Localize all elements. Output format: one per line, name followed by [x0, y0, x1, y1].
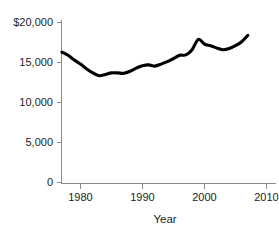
x-tick-label-1990: 1990: [130, 191, 154, 203]
x-tick-label-1980: 1980: [68, 191, 92, 203]
x-axis-title: Year: [153, 213, 176, 225]
data-line-series-value: [62, 35, 248, 75]
x-axis-group: 1980 1990 2000 2010 Year: [62, 184, 279, 226]
y-axis-group: $20,000 15,000 10,000 5,000 0: [13, 16, 61, 188]
y-tick-labels: $20,000 15,000 10,000 5,000 0: [13, 16, 53, 188]
x-tick-label-2010: 2010: [254, 191, 278, 203]
chart-canvas: $20,000 15,000 10,000 5,000 0 1980 1990 …: [0, 0, 279, 237]
line-chart-figure: $20,000 15,000 10,000 5,000 0 1980 1990 …: [0, 0, 279, 237]
y-tick-label-15000: 15,000: [19, 56, 53, 68]
plot-series-group: [62, 35, 248, 75]
y-tick-label-10000: 10,000: [19, 96, 53, 108]
x-tick-label-2000: 2000: [192, 191, 216, 203]
x-tick-marks: [81, 184, 267, 189]
x-tick-labels: 1980 1990 2000 2010: [68, 191, 278, 203]
y-tick-label-5000: 5,000: [25, 136, 53, 148]
y-tick-label-20000: $20,000: [13, 16, 53, 28]
y-tick-label-0: 0: [47, 176, 53, 188]
y-tick-marks: [57, 23, 62, 183]
